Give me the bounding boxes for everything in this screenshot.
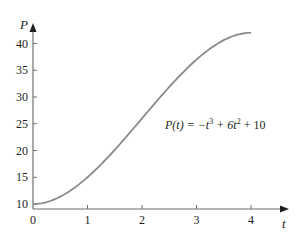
x-tick-label: 1 (85, 213, 91, 227)
chart: 10152025303540 01234 P t P(t) = −t3 + 6t… (0, 0, 297, 236)
x-tick-label: 0 (30, 213, 36, 227)
y-tick-label: 20 (16, 144, 28, 158)
x-axis-arrow-icon (280, 206, 289, 213)
y-tick-label: 10 (16, 197, 28, 211)
function-annotation: P(t) = −t3 + 6t2 + 10 (164, 117, 265, 132)
y-axis-arrow-icon (30, 23, 37, 32)
x-tick-label: 4 (248, 213, 254, 227)
y-ticks: 10152025303540 (16, 37, 37, 212)
y-tick-label: 15 (16, 170, 28, 184)
y-tick-label: 35 (16, 63, 28, 77)
y-axis-label: P (19, 17, 28, 32)
y-tick-label: 30 (16, 90, 28, 104)
x-ticks: 01234 (30, 205, 254, 227)
x-axis-label: t (282, 216, 286, 231)
y-tick-label: 25 (16, 117, 28, 131)
x-tick-label: 3 (194, 213, 200, 227)
x-tick-label: 2 (139, 213, 145, 227)
y-tick-label: 40 (16, 37, 28, 51)
